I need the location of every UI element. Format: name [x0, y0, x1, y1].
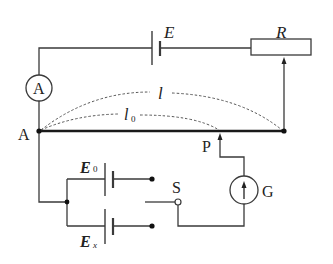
- galvanometer-icon: [230, 176, 258, 204]
- label-s: S: [172, 179, 181, 196]
- slider-arrowhead-icon: [282, 57, 287, 64]
- label-p: P: [202, 138, 211, 155]
- wire-galvanometer-to-p: [220, 140, 244, 176]
- switch-pivot-icon[interactable]: [175, 199, 181, 205]
- wire-a-to-junction: [39, 131, 67, 202]
- switch-contact-e0-dot[interactable]: [149, 176, 154, 181]
- length-l-arc-right: [172, 93, 282, 130]
- unknown-cell-ex-icon: [105, 209, 113, 244]
- junction-dot: [65, 200, 70, 205]
- label-ex-sub: x: [92, 240, 97, 250]
- label-e0-sub: 0: [93, 164, 98, 174]
- node-right-end-dot: [281, 128, 286, 133]
- label-r: R: [275, 23, 287, 42]
- standard-cell-e0-icon: [105, 163, 113, 196]
- label-node-a: A: [18, 126, 30, 143]
- wire-switch-to-galvanometer: [178, 204, 244, 226]
- slider-p-arrowhead-icon: [218, 133, 223, 140]
- label-g: G: [262, 183, 274, 200]
- label-ammeter: A: [33, 80, 45, 97]
- label-ex: E: [79, 233, 91, 250]
- battery-e-icon: [152, 31, 160, 65]
- potentiometer-circuit-diagram: E R A A l l 0 P S G E 0 E x: [0, 0, 333, 264]
- label-e: E: [163, 23, 175, 42]
- length-l0-arc-right: [140, 115, 219, 130]
- wire-top-left: [39, 48, 152, 75]
- label-length-l: l: [158, 84, 163, 103]
- label-length-l0: l: [124, 106, 129, 123]
- label-length-l0-sub: 0: [131, 114, 136, 124]
- node-a-dot: [36, 128, 41, 133]
- label-e0: E: [79, 159, 91, 176]
- length-l-arc: [41, 92, 150, 130]
- switch-contact-ex-dot[interactable]: [149, 223, 154, 228]
